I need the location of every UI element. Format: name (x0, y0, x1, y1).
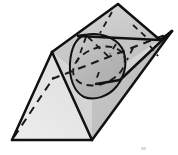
scan-artifact-mark (141, 147, 146, 150)
figure-canvas (0, 0, 178, 155)
geometry-illustration (0, 0, 178, 155)
plane-left-leading-edge (78, 35, 85, 36)
